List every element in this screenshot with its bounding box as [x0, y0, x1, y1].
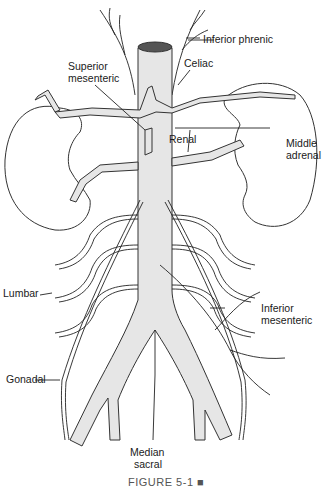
label-renal: Renal — [169, 133, 196, 145]
label-gonadal: Gonadal — [6, 373, 46, 385]
label-inferior-mesenteric-line2: mesenteric — [261, 314, 312, 326]
superior-mesenteric-artery — [145, 128, 152, 155]
label-inferior-phrenic: Inferior phrenic — [203, 33, 273, 45]
label-middle-adrenal-line2: adrenal — [286, 149, 321, 161]
label-median-sacral-line1: Median — [130, 446, 164, 458]
label-median-sacral-line2: sacral — [134, 458, 162, 470]
label-middle-adrenal-line1: Middle — [286, 137, 317, 149]
figure-caption: FIGURE 5-1 ■ — [128, 476, 204, 488]
median-sacral-artery — [153, 330, 155, 440]
label-celiac: Celiac — [184, 57, 213, 69]
label-lumbar: Lumbar — [3, 287, 39, 299]
label-superior-mesenteric-line2: mesenteric — [68, 72, 119, 84]
label-inferior-mesenteric-line1: Inferior — [261, 302, 294, 314]
left-kidney — [5, 106, 90, 230]
label-superior-mesenteric-line1: Superior — [68, 60, 108, 72]
